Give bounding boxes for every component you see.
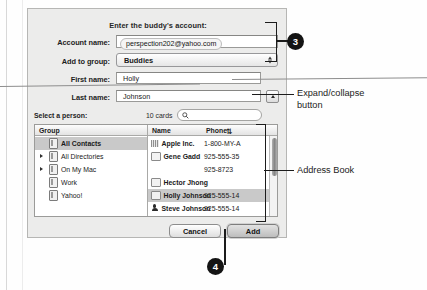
leader-line-4 [224,229,226,265]
first-name-value: Holly [123,74,139,83]
cards-count-label: 10 cards [146,112,172,119]
last-name-value: Johnson [123,92,150,101]
table-row[interactable]: Apple Inc. 1-800-MY-A [148,137,269,150]
leader-line-address-book [264,170,294,171]
leader-line-expand [252,94,294,95]
callout-marker-3: 3 [287,33,304,50]
table-row[interactable]: Gene Gadd 925-555-35 [148,150,269,163]
list-item[interactable]: Work [35,176,147,189]
annotation-expand-collapse: Expand/collapse button [297,88,364,111]
last-name-field[interactable]: Johnson [116,90,261,102]
first-name-label: First name: [36,75,110,84]
add-to-group-label: Add to group: [36,57,110,66]
dialog-title: Enter the buddy's account: [28,21,288,30]
table-row[interactable]: 925-8723 [148,163,269,176]
list-item[interactable]: All Directories [35,150,147,163]
person-icon [151,204,159,212]
screenshot-page: Enter the buddy's account: Account name:… [0,0,427,290]
card-icon [151,178,161,187]
card-icon [151,152,161,161]
triangle-up-icon [271,95,275,98]
search-icon [182,112,189,119]
select-person-label: Select a person: [34,112,87,119]
account-name-token: perspection202@yahoo.com [120,38,222,50]
table-row[interactable]: 925-555-14 [148,215,269,216]
page-gutter-line [22,0,23,290]
search-input[interactable] [177,109,262,121]
last-name-label: Last name: [36,93,110,102]
group-folder-icon [49,164,58,175]
people-list[interactable]: Apple Inc. 1-800-MY-A Gene Gadd 925-555-… [148,136,269,216]
group-column-header: Group [35,125,148,136]
table-row[interactable]: Hector Jhong [148,176,269,189]
account-name-label: Account name: [36,38,110,47]
group-list[interactable]: All Contacts All Directories On My Mac [35,136,147,216]
card-icon [151,191,161,200]
add-to-group-value: Buddies [124,56,153,65]
expand-collapse-button[interactable] [266,90,279,103]
callout-marker-4: 4 [207,258,224,275]
sort-indicator-icon: ⇅ [226,127,232,136]
building-icon [151,140,159,147]
bracket-callout-3 [265,22,277,62]
group-folder-icon [49,151,58,162]
account-name-field[interactable]: perspection202@yahoo.com [116,35,278,48]
page-edge-line [6,0,7,290]
add-buddy-dialog: Enter the buddy's account: Account name:… [27,8,287,238]
group-folder-icon [49,138,58,149]
list-item[interactable]: All Contacts [35,137,147,150]
cancel-button[interactable]: Cancel [169,224,221,238]
vertical-scrollbar[interactable] [269,136,277,216]
add-button[interactable]: Add [227,224,279,238]
group-folder-icon [49,177,58,188]
group-folder-icon [49,190,58,201]
bracket-address-book [256,124,266,222]
table-row[interactable]: Steve Johnson 925-555-14 [148,202,269,215]
annotation-address-book: Address Book [297,165,354,177]
chevron-right-icon[interactable] [40,154,43,158]
list-item[interactable]: Yahoo! [35,189,147,202]
add-to-group-select[interactable]: Buddies [116,53,278,67]
table-row[interactable]: Holly Johnson 925-555-14 [148,189,269,202]
chevron-right-icon[interactable] [40,167,43,171]
list-item[interactable]: On My Mac [35,163,147,176]
address-book-browser: Group Name Phone ⇅ All Contacts [34,124,278,217]
